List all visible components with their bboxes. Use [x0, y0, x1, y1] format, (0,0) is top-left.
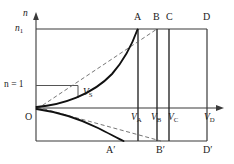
bottom-point-B-prime: B′	[156, 145, 165, 155]
top-point-A: A	[134, 12, 141, 22]
bottom-point-A-prime: A′	[106, 145, 115, 155]
x-tick-VC: VC	[168, 113, 178, 123]
y-tick-n-equals-one: 1n = 1	[4, 80, 24, 90]
x-axis-label-VD: VD	[204, 113, 215, 123]
top-point-C: C	[166, 12, 173, 22]
x-tick-VB: VB	[151, 113, 161, 123]
y-axis-label: n	[23, 9, 28, 19]
bottom-point-D-prime: D′	[203, 145, 212, 155]
y-tick-n1: n1	[15, 24, 23, 34]
x-axis-arrowhead	[216, 105, 224, 111]
figure-container: n n1 1n = 1 O VS A B C D VA VB VC VD A′	[0, 0, 234, 164]
y-axis-arrowhead	[33, 12, 39, 20]
vs-annotation: VS	[83, 88, 93, 98]
top-point-D: D	[203, 12, 210, 22]
upper-dashed-line	[37, 29, 157, 109]
origin-label: O	[25, 112, 32, 122]
x-tick-VA: VA	[131, 113, 142, 123]
top-point-B: B	[153, 12, 160, 22]
figure-svg	[0, 0, 234, 164]
lower-solid-curve	[37, 109, 124, 141]
